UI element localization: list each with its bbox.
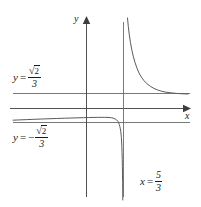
y-axis-label: y <box>74 14 78 24</box>
vertical-asymptote-fraction: 5 3 <box>155 169 162 193</box>
lower-asymptote-minus-sign: − <box>28 131 35 143</box>
lower-asymptote-numerator: √2 <box>35 125 48 138</box>
x-axis-label: x <box>185 111 189 121</box>
upper-asymptote-denominator: 3 <box>28 78 41 90</box>
upper-asymptote-label: y= √2 3 <box>13 66 41 90</box>
vertical-asymptote-label: x= 5 3 <box>140 170 162 194</box>
upper-asymptote-equals: = <box>18 71 28 83</box>
y-axis-arrowhead <box>83 16 90 24</box>
sqrt-icon: √2 <box>36 125 47 137</box>
lower-asymptote-equals: = <box>18 131 28 143</box>
curve-right-branch <box>128 18 189 94</box>
vertical-asymptote-denominator: 3 <box>155 182 162 194</box>
vertical-asymptote-numerator: 5 <box>155 169 162 182</box>
upper-asymptote-radicand: 2 <box>34 65 41 76</box>
upper-asymptote-numerator: √2 <box>28 65 41 78</box>
vertical-asymptote-equals: = <box>145 175 155 187</box>
sqrt-icon: √2 <box>29 65 40 77</box>
upper-asymptote-fraction: √2 3 <box>28 65 41 89</box>
lower-asymptote-fraction: √2 3 <box>35 125 48 149</box>
lower-asymptote-denominator: 3 <box>35 138 48 150</box>
rational-function-figure: y x y= √2 3 y=− √2 3 x= 5 3 <box>0 0 201 207</box>
lower-asymptote-label: y=− √2 3 <box>13 126 48 150</box>
lower-asymptote-radicand: 2 <box>41 125 48 136</box>
graph-canvas <box>0 0 201 207</box>
